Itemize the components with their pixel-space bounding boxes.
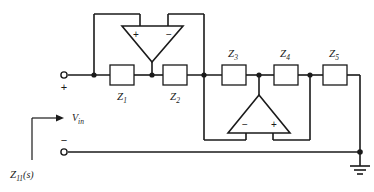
junction-dot-z4-z5 — [307, 72, 312, 77]
annotation-arrowhead-icon — [56, 115, 64, 122]
impedance-box-z4 — [274, 65, 298, 85]
opamp-bottom-plus-sign: + — [271, 119, 277, 130]
impedance-label-z3: Z3 — [228, 47, 238, 62]
annotation-vin-z11: Vin Z11(s) — [10, 112, 84, 183]
junction-dot-z3-z4 — [256, 72, 261, 77]
driving-point-impedance-label: Z11(s) — [10, 168, 34, 183]
impedance-box-z1 — [110, 65, 134, 85]
circuit-schematic: + − − + Z1 — [0, 0, 374, 192]
input-terminal-minus-label: − — [61, 134, 67, 146]
opamp-top-triangle — [122, 26, 183, 62]
opamp-bottom-triangle — [228, 95, 290, 133]
impedance-label-z1: Z1 — [117, 90, 127, 105]
junction-dot-z1-z2 — [149, 72, 154, 77]
opamp-top-plus-sign: + — [133, 29, 139, 40]
impedance-label-z4: Z4 — [280, 47, 290, 62]
input-terminal-minus-circle — [61, 149, 67, 155]
ground-icon — [350, 152, 370, 174]
input-terminal-plus-label: + — [61, 81, 67, 93]
impedance-box-z2 — [163, 65, 187, 85]
impedance-box-z5 — [323, 65, 347, 85]
circuit-diagram-canvas: + − − + Z1 — [0, 0, 374, 192]
impedance-label-z5: Z5 — [329, 47, 339, 62]
junction-dot-z2-z3 — [201, 72, 206, 77]
opamp-top-minus-sign: − — [166, 29, 172, 40]
impedance-label-z2: Z2 — [170, 90, 180, 105]
impedance-box-z3 — [222, 65, 246, 85]
input-voltage-label: Vin — [72, 112, 84, 126]
input-terminal-plus-circle — [61, 72, 67, 78]
junction-dot-input — [91, 72, 96, 77]
opamp-bottom-minus-sign: − — [242, 119, 248, 130]
input-terminals: + − — [61, 72, 67, 155]
